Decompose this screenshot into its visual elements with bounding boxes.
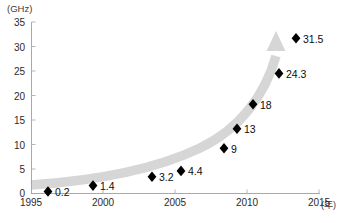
data-point-marker	[148, 172, 157, 183]
data-point-label-2: 3.2	[159, 171, 174, 183]
y-tick-label-35: 35	[3, 17, 25, 28]
data-point-label-0: 0.2	[55, 186, 70, 198]
data-point-label-3: 4.4	[188, 165, 203, 177]
y-tick-label-15: 15	[3, 115, 25, 126]
y-tick-label-5: 5	[3, 164, 25, 175]
x-tick-label-2015: 2015	[302, 197, 336, 208]
x-tick-label-2005: 2005	[158, 197, 192, 208]
data-point-marker	[220, 143, 229, 154]
chart-plot-area	[0, 0, 348, 223]
x-tick-marks	[103, 190, 319, 194]
data-point-label-1: 1.4	[100, 180, 115, 192]
x-tick-label-1995: 1995	[14, 197, 48, 208]
data-point-label-4: 9	[231, 143, 237, 155]
y-tick-label-30: 30	[3, 42, 25, 53]
data-point-label-7: 24.3	[286, 68, 306, 80]
data-point-marker	[177, 166, 186, 177]
y-tick-label-25: 25	[3, 66, 25, 77]
y-axis-unit-label: (GHz)	[7, 3, 32, 14]
trend-arrow-icon	[31, 31, 286, 185]
y-tick-label-20: 20	[3, 91, 25, 102]
y-tick-marks	[32, 22, 36, 169]
y-tick-label-10: 10	[3, 140, 25, 151]
data-point-label-8: 31.5	[303, 33, 323, 45]
data-point-marker	[292, 33, 301, 44]
x-tick-label-2000: 2000	[86, 197, 120, 208]
chart-container: (GHz) (年) 35 30 25 20 15 10 5 0 1995 200…	[0, 0, 348, 223]
x-tick-label-2010: 2010	[230, 197, 264, 208]
data-point-label-5: 13	[244, 123, 256, 135]
data-point-label-6: 18	[260, 99, 272, 111]
